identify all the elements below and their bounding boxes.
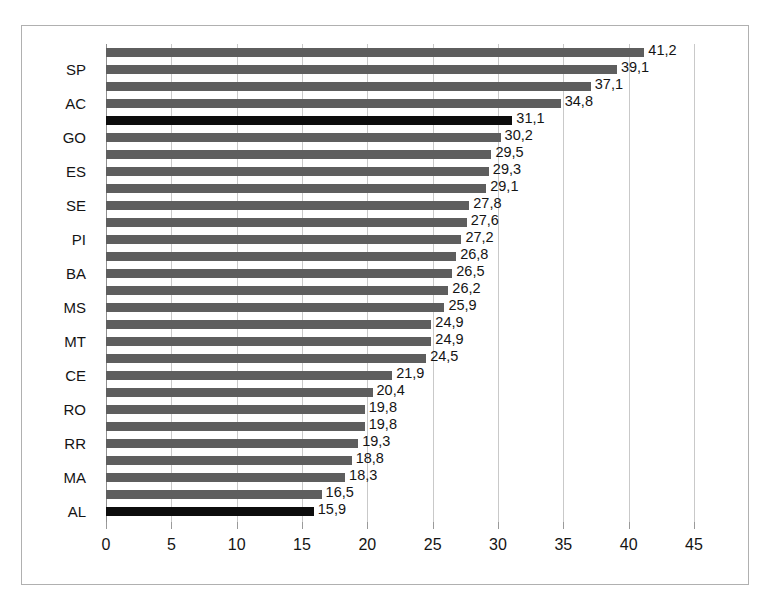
bar[interactable]: [106, 320, 431, 329]
bar-row: 26,5: [106, 265, 694, 282]
x-axis-tick: [629, 522, 630, 529]
gridline-45: [694, 44, 695, 522]
x-axis-tick: [498, 522, 499, 529]
bar-value-label: 29,3: [489, 161, 521, 178]
bar[interactable]: [106, 252, 456, 261]
bar[interactable]: [106, 303, 444, 312]
x-axis-tick-label: 25: [424, 536, 442, 554]
bar[interactable]: [106, 167, 489, 176]
x-axis-tick: [433, 522, 434, 529]
bar-value-label: 15,9: [314, 501, 346, 518]
bar-value-label: 30,2: [501, 127, 533, 144]
plot-area: 41,239,137,134,831,130,229,529,329,127,8…: [106, 44, 694, 522]
bar-row: 24,9: [106, 316, 694, 333]
bar[interactable]: [106, 99, 561, 108]
bar-value-label: 26,5: [452, 263, 484, 280]
category-label-ma: MA: [64, 469, 87, 486]
bar[interactable]: [106, 388, 373, 397]
bar-value-label: 24,9: [431, 314, 463, 331]
category-label-mt: MT: [64, 333, 86, 350]
bar-value-label: 37,1: [591, 76, 623, 93]
bar-row: 24,9: [106, 333, 694, 350]
bar-row: 19,8: [106, 418, 694, 435]
bar[interactable]: [106, 201, 469, 210]
bar-value-label: 26,8: [456, 246, 488, 263]
bar-row: 34,8: [106, 95, 694, 112]
bar[interactable]: [106, 133, 501, 142]
category-label-al: AL: [68, 503, 86, 520]
bar[interactable]: [106, 286, 448, 295]
x-axis-tick-label: 10: [228, 536, 246, 554]
bar[interactable]: [106, 405, 365, 414]
bar[interactable]: [106, 490, 322, 499]
category-label-ac: AC: [65, 95, 86, 112]
bar-value-label: 18,8: [352, 450, 384, 467]
bar-value-label: 26,2: [448, 280, 480, 297]
bar-row: 26,2: [106, 282, 694, 299]
category-label-se: SE: [66, 197, 86, 214]
bar-value-label: 16,5: [322, 484, 354, 501]
bar-value-label: 19,8: [365, 399, 397, 416]
bar-row: 37,1: [106, 78, 694, 95]
bar-value-label: 21,9: [392, 365, 424, 382]
bar-highlighted[interactable]: [106, 116, 512, 125]
bar-value-label: 25,9: [444, 297, 476, 314]
bar[interactable]: [106, 269, 452, 278]
bar[interactable]: [106, 456, 352, 465]
bar-row: 29,5: [106, 146, 694, 163]
bar-row: 30,2: [106, 129, 694, 146]
x-axis-tick: [302, 522, 303, 529]
bar-row: 18,3: [106, 469, 694, 486]
y-axis-category-labels: SPACGOESSEPIBAMSMTCERORRMAAL: [22, 44, 98, 522]
x-axis-tick: [367, 522, 368, 529]
x-axis-tick: [563, 522, 564, 529]
x-axis-tick: [171, 522, 172, 529]
bar-row: 41,2: [106, 44, 694, 61]
bar-value-label: 29,1: [486, 178, 518, 195]
bar[interactable]: [106, 235, 461, 244]
bar-value-label: 34,8: [561, 93, 593, 110]
bar-row: 25,9: [106, 299, 694, 316]
bar[interactable]: [106, 371, 392, 380]
bar-row: 19,3: [106, 435, 694, 452]
bar[interactable]: [106, 337, 431, 346]
bar-row: 27,6: [106, 214, 694, 231]
bar-value-label: 18,3: [345, 467, 377, 484]
bar-row: 19,8: [106, 401, 694, 418]
category-label-ro: RO: [64, 401, 87, 418]
bar[interactable]: [106, 439, 358, 448]
bar[interactable]: [106, 354, 426, 363]
bar-value-label: 27,2: [461, 229, 493, 246]
bar-value-label: 39,1: [617, 59, 649, 76]
bar-highlighted[interactable]: [106, 507, 314, 516]
x-axis-tick-label: 5: [167, 536, 176, 554]
bar-row: 16,5: [106, 486, 694, 503]
bar-value-label: 27,6: [467, 212, 499, 229]
bar[interactable]: [106, 218, 467, 227]
x-axis-tick: [106, 522, 107, 529]
bar[interactable]: [106, 48, 644, 57]
bar-value-label: 27,8: [469, 195, 501, 212]
x-axis: 051015202530354045: [106, 522, 694, 562]
bar-row: 20,4: [106, 384, 694, 401]
bar-value-label: 24,5: [426, 348, 458, 365]
bar[interactable]: [106, 422, 365, 431]
x-axis-tick-label: 35: [554, 536, 572, 554]
category-label-pi: PI: [72, 231, 86, 248]
bar[interactable]: [106, 150, 491, 159]
bar[interactable]: [106, 473, 345, 482]
bar[interactable]: [106, 65, 617, 74]
bar[interactable]: [106, 184, 486, 193]
x-axis-tick: [694, 522, 695, 529]
bar-row: 29,3: [106, 163, 694, 180]
bar-value-label: 41,2: [644, 42, 676, 59]
bar-row: 18,8: [106, 452, 694, 469]
bar-row: 27,2: [106, 231, 694, 248]
bar-value-label: 24,9: [431, 331, 463, 348]
chart-frame: SPACGOESSEPIBAMSMTCERORRMAAL 41,239,137,…: [21, 25, 749, 585]
bar-row: 26,8: [106, 248, 694, 265]
bar-value-label: 19,8: [365, 416, 397, 433]
x-axis-tick-label: 0: [102, 536, 111, 554]
bar-value-label: 29,5: [491, 144, 523, 161]
bar[interactable]: [106, 82, 591, 91]
